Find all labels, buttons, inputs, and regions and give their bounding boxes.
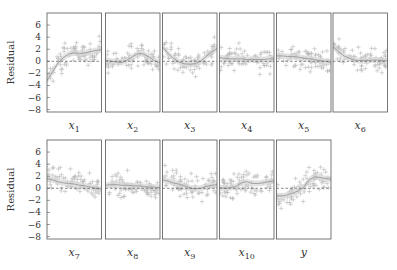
panel-x9: x9 (161, 140, 218, 261)
panel-x2: x2 (104, 13, 161, 134)
y-tick-label: 6 (35, 20, 41, 30)
y-axis-label: Residual (5, 168, 16, 212)
y-tick-label: 0 (35, 183, 41, 193)
axes-group: 6420−2−4−6−8Residual6420−2−4−6−8Residual (5, 20, 50, 242)
x-axis-label: x10 (239, 246, 255, 261)
panel-x3: x3 (161, 13, 217, 134)
y-tick-label: −4 (28, 207, 42, 217)
confidence-band (277, 53, 332, 66)
x-axis-label: x3 (184, 119, 195, 134)
y-tick-label: 4 (35, 32, 41, 42)
x-axis-label: x1 (69, 119, 80, 134)
y-tick-label: −2 (28, 195, 41, 205)
x-axis-label: y (300, 246, 308, 259)
y-tick-label: 4 (35, 159, 41, 169)
y-tick-label: 0 (35, 56, 41, 66)
panel-y: y (275, 140, 331, 259)
x-axis-label: x8 (127, 246, 138, 261)
x-axis-label: x7 (69, 246, 80, 261)
panel-frame (47, 13, 102, 112)
x-axis-label: x9 (184, 246, 195, 261)
y-tick-label: 2 (35, 44, 41, 54)
panel-x6: x6 (332, 13, 389, 134)
y-tick-label: −4 (28, 80, 42, 90)
panel-x7: x7 (47, 140, 102, 261)
panel-x5: x5 (276, 13, 332, 134)
y-tick-label: −6 (28, 93, 42, 103)
panel-x8: x8 (106, 140, 162, 261)
y-tick-label: 2 (35, 171, 41, 181)
x-axis-label: x2 (127, 119, 138, 134)
panel-x4: x4 (219, 13, 275, 134)
y-axis-label: Residual (5, 41, 16, 85)
y-tick-label: −8 (28, 232, 42, 242)
panel-x1: x1 (46, 13, 102, 134)
y-tick-label: 6 (35, 147, 41, 157)
x-axis-label: x4 (241, 119, 252, 134)
panels-group: x1x2x3x4x5x6x7x8x9x10y (46, 13, 388, 261)
residual-plot-grid: x1x2x3x4x5x6x7x8x9x10y 6420−2−4−6−8Resid… (0, 0, 397, 270)
y-tick-label: −6 (28, 220, 42, 230)
panel-x10: x10 (218, 140, 274, 261)
scatter-points (46, 34, 102, 83)
x-axis-label: x5 (298, 119, 309, 134)
y-tick-label: −8 (28, 105, 42, 115)
x-axis-label: x6 (355, 119, 366, 134)
y-tick-label: −2 (28, 68, 41, 78)
